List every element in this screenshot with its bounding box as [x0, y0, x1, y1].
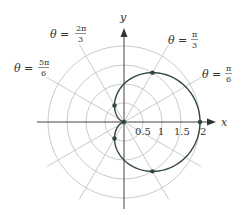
svg-text:θ =: θ = — [202, 68, 221, 81]
grid-ray — [124, 45, 169, 122]
tick-label-1-5: 1.5 — [174, 126, 190, 137]
data-point — [150, 169, 154, 173]
svg-text:π: π — [192, 30, 197, 39]
svg-text:θ =: θ = — [168, 34, 187, 47]
svg-text:6: 6 — [41, 69, 46, 78]
polar-plot: x y 0.5 1 1.5 2 θ = 2π 3 θ = π 3 θ = π 6… — [0, 0, 243, 218]
grid-ray — [124, 77, 201, 122]
grid-ray — [79, 122, 124, 199]
theta-label-5pi-6: θ = 5π 6 — [14, 58, 49, 78]
data-point — [112, 103, 116, 107]
y-axis-arrow-icon — [121, 28, 128, 37]
svg-text:5π: 5π — [39, 58, 49, 67]
grid-ray — [47, 77, 124, 122]
svg-text:6: 6 — [226, 75, 231, 84]
tick-label-0-5: 0.5 — [135, 126, 151, 137]
svg-text:3: 3 — [78, 35, 83, 44]
data-point — [112, 136, 116, 140]
x-axis-label: x — [221, 116, 228, 129]
svg-text:θ =: θ = — [50, 28, 69, 41]
svg-text:θ =: θ = — [14, 62, 33, 75]
data-point — [122, 120, 126, 124]
svg-text:3: 3 — [192, 41, 197, 50]
y-axis-label: y — [119, 11, 127, 24]
x-axis-arrow-icon — [207, 119, 216, 126]
grid-ray — [47, 122, 124, 167]
tick-label-2: 2 — [200, 126, 206, 137]
data-point — [198, 120, 202, 124]
tick-label-1: 1 — [158, 126, 164, 137]
theta-label-pi-6: θ = π 6 — [202, 64, 232, 84]
svg-text:π: π — [226, 64, 231, 73]
theta-label-pi-3: θ = π 3 — [168, 30, 198, 50]
data-point — [150, 70, 154, 74]
svg-text:2π: 2π — [76, 24, 86, 33]
grid-ray — [79, 45, 124, 122]
theta-label-2pi-3: θ = 2π 3 — [50, 24, 86, 44]
x-axis — [37, 119, 216, 126]
